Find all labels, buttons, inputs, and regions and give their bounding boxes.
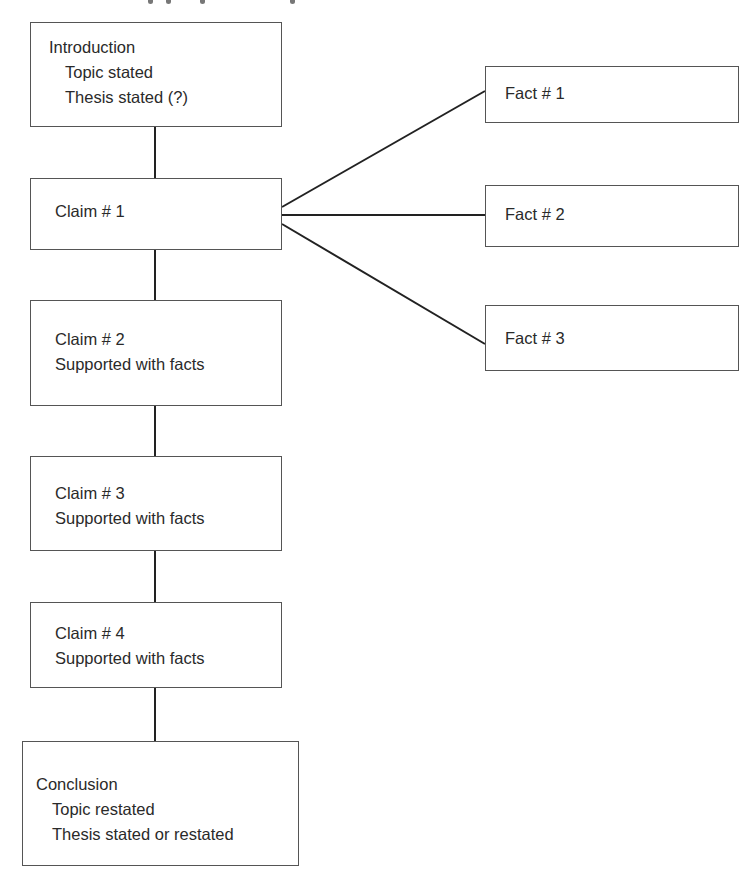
fact-3-box: Fact # 3	[485, 305, 739, 371]
introduction-box: Introduction Topic stated Thesis stated …	[30, 22, 282, 127]
claim-3-title: Claim # 3	[55, 481, 281, 506]
claim-4-subitem: Supported with facts	[55, 646, 281, 671]
claim-4-box: Claim # 4 Supported with facts	[30, 602, 282, 688]
conclusion-subitem: Topic restated	[36, 797, 298, 822]
claim-3-box: Claim # 3 Supported with facts	[30, 456, 282, 551]
edge-claim1-fact3	[282, 224, 485, 344]
conclusion-subitem: Thesis stated or restated	[36, 822, 298, 847]
claim-2-box: Claim # 2 Supported with facts	[30, 300, 282, 406]
introduction-subitem: Topic stated	[49, 60, 281, 85]
introduction-subitem: Thesis stated (?)	[49, 85, 281, 110]
claim-3-subitem: Supported with facts	[55, 506, 281, 531]
fact-3-label: Fact # 3	[505, 326, 738, 351]
claim-1-box: Claim # 1	[30, 178, 282, 250]
fact-2-label: Fact # 2	[505, 202, 738, 227]
conclusion-title: Conclusion	[36, 772, 298, 797]
claim-2-title: Claim # 2	[55, 327, 281, 352]
fact-1-box: Fact # 1	[485, 66, 739, 123]
claim-4-title: Claim # 4	[55, 621, 281, 646]
introduction-title: Introduction	[49, 35, 281, 60]
edge-claim1-fact1	[282, 91, 485, 207]
fact-2-box: Fact # 2	[485, 185, 739, 247]
claim-2-subitem: Supported with facts	[55, 352, 281, 377]
claim-1-title: Claim # 1	[55, 199, 281, 224]
conclusion-box: Conclusion Topic restated Thesis stated …	[22, 741, 299, 866]
fact-1-label: Fact # 1	[505, 81, 738, 106]
